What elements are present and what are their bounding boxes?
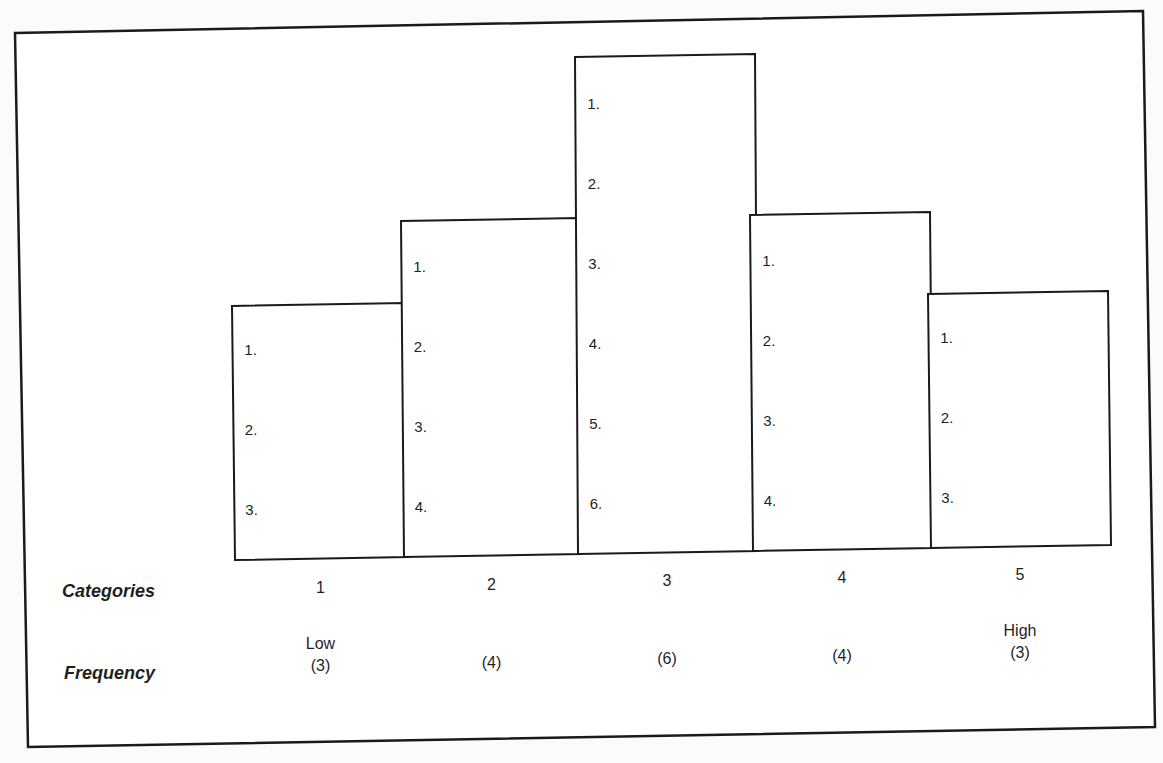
bar-item-label: 2. xyxy=(941,409,954,426)
bar-item-label: 6. xyxy=(590,495,603,512)
bar-item-label: 4. xyxy=(589,335,602,352)
bar-category-3 xyxy=(575,54,758,554)
frequency-value-label: (3) xyxy=(1010,644,1030,661)
frequency-value-label: (3) xyxy=(311,657,331,674)
bar-item-label: 3. xyxy=(941,489,954,506)
bar-item-label: 1. xyxy=(413,258,426,275)
bar-item-label: 3. xyxy=(414,418,427,435)
bar-item-label: 3. xyxy=(245,501,258,518)
category-tick-label: 4 xyxy=(838,569,847,586)
bar-category-5 xyxy=(928,291,1111,548)
bar-item-label: 2. xyxy=(414,338,427,355)
bar-item-label: 1. xyxy=(244,341,257,358)
bar-item-label: 1. xyxy=(762,252,775,269)
bar-category-4 xyxy=(750,212,933,551)
frequency-value-label: (6) xyxy=(657,650,677,667)
bar-item-label: 3. xyxy=(588,255,601,272)
categories-row-label: Categories xyxy=(62,581,155,601)
frequency-value-label: (4) xyxy=(482,654,502,671)
bar-item-label: 3. xyxy=(763,412,776,429)
category-tick-label: 3 xyxy=(663,572,672,589)
bar-category-2 xyxy=(401,218,581,557)
category-tick-label: 1 xyxy=(316,579,325,596)
category-annotation: Low xyxy=(306,635,336,652)
bar-item-label: 5. xyxy=(589,415,602,432)
category-annotation: High xyxy=(1004,622,1037,639)
bar-item-label: 4. xyxy=(415,498,428,515)
bar-item-label: 2. xyxy=(588,175,601,192)
bar-item-label: 2. xyxy=(763,332,776,349)
frequency-row-label: Frequency xyxy=(64,663,156,683)
histogram-figure: 1.2.3.1Low(3)1.2.3.4.2(4)1.2.3.4.5.6.3(6… xyxy=(0,0,1163,763)
bar-category-1 xyxy=(232,303,408,560)
bar-item-label: 1. xyxy=(940,329,953,346)
bar-item-label: 2. xyxy=(245,421,258,438)
histogram-chart: 1.2.3.1Low(3)1.2.3.4.2(4)1.2.3.4.5.6.3(6… xyxy=(0,0,1163,763)
category-tick-label: 5 xyxy=(1016,566,1025,583)
frequency-value-label: (4) xyxy=(832,647,852,664)
category-tick-label: 2 xyxy=(487,576,496,593)
bar-item-label: 4. xyxy=(764,492,777,509)
bar-item-label: 1. xyxy=(587,95,600,112)
